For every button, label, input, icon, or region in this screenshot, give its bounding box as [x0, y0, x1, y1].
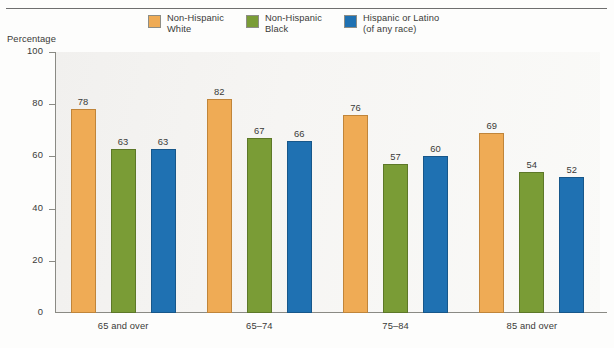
bar-value-label: 60 [430, 143, 441, 154]
x-axis-category-label: 85 and over [507, 320, 558, 331]
header-divider [6, 8, 607, 9]
y-axis-tick-label: 40 [32, 202, 43, 213]
y-axis-tick-label: 80 [32, 97, 43, 108]
bar: 67 [247, 138, 272, 313]
bar: 60 [423, 156, 448, 313]
y-axis-tick-mark [49, 104, 55, 105]
y-axis-tick-label: 0 [38, 306, 43, 317]
bar-value-label: 57 [390, 151, 401, 162]
bar: 78 [71, 109, 96, 313]
y-axis-tick-mark [49, 209, 55, 210]
y-axis-tick-mark [49, 261, 55, 262]
legend-swatch-icon [344, 15, 357, 28]
plot-background [55, 52, 600, 313]
bar: 76 [343, 115, 368, 313]
bar: 82 [207, 99, 232, 313]
bar-value-label: 78 [78, 96, 89, 107]
bar-value-label: 69 [487, 120, 498, 131]
bar: 52 [559, 177, 584, 313]
y-axis-tick-label: 100 [27, 45, 43, 56]
chart-figure: Non-Hispanic WhiteNon-Hispanic BlackHisp… [0, 0, 614, 348]
y-axis-tick-mark [49, 156, 55, 157]
x-axis-category-label: 65 and over [98, 320, 149, 331]
legend-label: Non-Hispanic White [167, 13, 224, 36]
bar-value-label: 52 [567, 164, 578, 175]
bar: 54 [519, 172, 544, 313]
legend-item[interactable]: Non-Hispanic White [148, 13, 224, 36]
bar-value-label: 54 [527, 159, 538, 170]
legend-swatch-icon [246, 15, 259, 28]
bar-value-label: 63 [118, 136, 129, 147]
legend-label: Non-Hispanic Black [265, 13, 322, 36]
bar-value-label: 82 [214, 86, 225, 97]
bar: 57 [383, 164, 408, 313]
legend-swatch-icon [148, 15, 161, 28]
legend-item[interactable]: Non-Hispanic Black [246, 13, 322, 36]
x-axis-category-label: 65–74 [246, 320, 273, 331]
y-axis-tick-label: 60 [32, 149, 43, 160]
bar: 63 [151, 149, 176, 313]
y-axis-tick-label: 20 [32, 254, 43, 265]
bar-value-label: 67 [254, 125, 265, 136]
y-axis-label: Percentage [7, 33, 56, 44]
y-axis-tick-mark [49, 52, 55, 53]
bar: 69 [479, 133, 504, 313]
plot-area [55, 52, 600, 313]
y-axis-line [55, 52, 56, 313]
bar-value-label: 76 [350, 102, 361, 113]
bar: 66 [287, 141, 312, 313]
x-axis-category-label: 75–84 [382, 320, 409, 331]
bar-value-label: 63 [158, 136, 169, 147]
bar: 63 [111, 149, 136, 313]
legend-item[interactable]: Hispanic or Latino (of any race) [344, 13, 439, 36]
bar-value-label: 66 [294, 128, 305, 139]
chart-legend: Non-Hispanic WhiteNon-Hispanic BlackHisp… [148, 13, 439, 36]
legend-label: Hispanic or Latino (of any race) [363, 13, 439, 36]
